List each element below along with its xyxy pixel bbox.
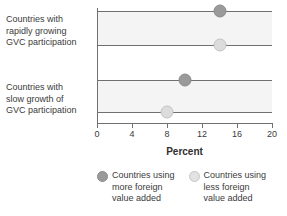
legend-marker-icon-less (189, 171, 200, 182)
data-point-less-8[interactable] (161, 106, 174, 119)
legend-item-less-foreign-value-added[interactable]: Countries using less foreign value added (189, 170, 267, 205)
x-axis-tick (272, 124, 273, 128)
gvc-participation-dot-chart: Countries with rapidly growing GVC parti… (0, 0, 287, 216)
row-band-upper (97, 11, 272, 45)
category-label-line: rapidly growing (6, 26, 94, 38)
row-rule-2 (97, 45, 272, 46)
x-axis-tick (167, 124, 168, 128)
plot-area: 048121620 (97, 8, 272, 123)
category-label-line: Countries with (6, 14, 94, 26)
legend-marker-icon-more (97, 171, 108, 182)
category-label-line: GVC participation (6, 37, 94, 49)
x-axis-tick-label: 20 (267, 129, 277, 140)
x-axis-tick-label: 0 (94, 129, 99, 140)
legend-label-less: Countries using less foreign value added (204, 170, 267, 205)
x-axis-title: Percent (97, 146, 272, 157)
x-axis-tick (237, 124, 238, 128)
x-axis-tick-label: 16 (232, 129, 242, 140)
legend-label-more: Countries using more foreign value added (112, 170, 175, 205)
legend-item-more-foreign-value-added[interactable]: Countries using more foreign value added (97, 170, 175, 205)
x-axis-tick-label: 4 (129, 129, 134, 140)
x-axis-tick (97, 124, 98, 128)
category-label-line: slow growth of (6, 94, 94, 106)
row-rule-4 (97, 112, 272, 113)
x-axis-tick-label: 12 (197, 129, 207, 140)
data-point-more-10[interactable] (178, 74, 191, 87)
category-label-rapid-growth: Countries with rapidly growing GVC parti… (6, 14, 94, 49)
y-axis-line (97, 8, 98, 123)
x-axis-tick (202, 124, 203, 128)
data-point-less-14[interactable] (213, 39, 226, 52)
category-label-line: Countries with (6, 82, 94, 94)
x-axis-line (97, 123, 273, 124)
category-label-line: GVC participation (6, 105, 94, 117)
row-rule-1 (97, 11, 272, 12)
chart-legend: Countries using more foreign value added… (97, 170, 287, 205)
x-axis-tick (132, 124, 133, 128)
data-point-more-14[interactable] (213, 5, 226, 18)
x-axis-tick-label: 8 (164, 129, 169, 140)
category-label-slow-growth: Countries with slow growth of GVC partic… (6, 82, 94, 117)
